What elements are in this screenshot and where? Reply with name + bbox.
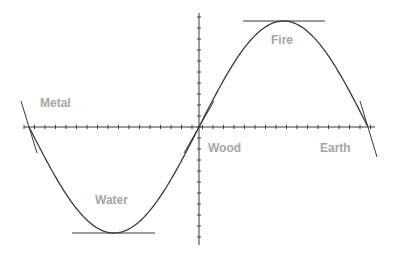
earth-label: Earth (320, 141, 351, 155)
water-label: Water (95, 193, 128, 207)
five-elements-sine-diagram (0, 0, 394, 256)
earth-tangent-line (360, 101, 377, 157)
fire-label: Fire (271, 33, 293, 47)
wood-label: Wood (208, 141, 241, 155)
metal-label: Metal (40, 96, 71, 110)
